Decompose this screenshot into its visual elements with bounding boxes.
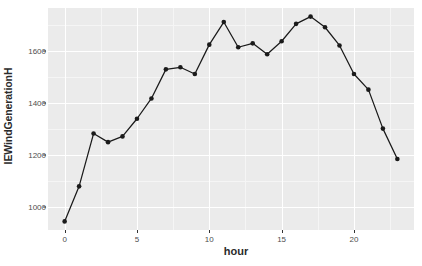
x-axis-ticks: 05101520: [0, 0, 422, 266]
x-tick-label: 0: [62, 235, 66, 244]
x-tick-label: 5: [135, 235, 139, 244]
x-tick-label: 20: [350, 235, 359, 244]
x-tick-mark: [354, 230, 355, 233]
x-tick-mark: [209, 230, 210, 233]
y-axis-title: IEWindGenerationH: [0, 0, 16, 232]
x-tick-mark: [137, 230, 138, 233]
y-axis-title-text: IEWindGenerationH: [2, 68, 14, 165]
x-tick-label: 10: [205, 235, 214, 244]
x-tick-mark: [282, 230, 283, 233]
line-chart: 1000120014001600 05101520 IEWindGenerati…: [0, 0, 422, 266]
x-tick-mark: [65, 230, 66, 233]
x-tick-label: 15: [277, 235, 286, 244]
x-axis-title: hour: [50, 245, 422, 257]
